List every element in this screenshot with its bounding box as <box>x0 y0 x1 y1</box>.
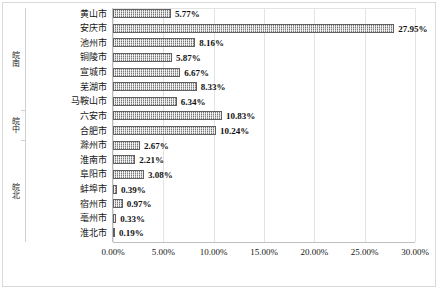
bar-value-label: 6.67% <box>184 67 209 79</box>
bar-value-label: 8.33% <box>201 81 226 93</box>
bar-value-label: 10.83% <box>226 110 255 122</box>
category-label: 宿州市 <box>80 198 107 211</box>
x-axis-tick-label: 20.00% <box>300 246 328 258</box>
category-label: 亳州市 <box>80 212 107 225</box>
bar-row: 10.83% <box>113 110 415 123</box>
bar-row: 8.16% <box>113 37 415 50</box>
bar-value-label: 5.87% <box>176 52 201 64</box>
gridline <box>415 8 416 242</box>
x-axis-tick-label: 10.00% <box>200 246 228 258</box>
bar-value-label: 0.33% <box>120 213 145 225</box>
bar-row: 2.21% <box>113 154 415 167</box>
category-label: 马鞍山市 <box>71 95 107 108</box>
bar-row: 2.67% <box>113 140 415 153</box>
category-label: 铜陵市 <box>80 51 107 64</box>
plot-bottom-border <box>113 242 415 243</box>
category-axis: 黄山市安庆市池州市铜陵市宣城市芜湖市马鞍山市六安市合肥市滁州市淮南市阜阳市蚌埠市… <box>26 8 112 242</box>
bar <box>113 199 123 208</box>
x-axis-tick-label: 25.00% <box>351 246 379 258</box>
bar <box>113 38 195 47</box>
group-separator-tick <box>21 110 26 111</box>
category-label: 淮南市 <box>80 154 107 167</box>
x-axis: 0.00%5.00%10.00%15.00%20.00%25.00%30.00% <box>113 246 415 262</box>
category-label: 阜阳市 <box>80 168 107 181</box>
bar-row: 5.77% <box>113 8 415 21</box>
category-label: 芜湖市 <box>80 81 107 94</box>
category-label: 池州市 <box>80 37 107 50</box>
bar-row: 0.33% <box>113 213 415 226</box>
bar <box>113 111 222 120</box>
category-label: 滁州市 <box>80 139 107 152</box>
bar <box>113 126 216 135</box>
x-axis-tick-label: 0.00% <box>101 246 124 258</box>
bar-chart: 皖南皖中皖北 黄山市安庆市池州市铜陵市宣城市芜湖市马鞍山市六安市合肥市滁州市淮南… <box>0 0 438 289</box>
bar-value-label: 0.97% <box>127 198 152 210</box>
bar-value-label: 6.34% <box>181 96 206 108</box>
bar-value-label: 5.77% <box>175 8 200 20</box>
x-axis-tick-label: 5.00% <box>152 246 175 258</box>
bar-value-label: 3.08% <box>148 169 173 181</box>
x-axis-tick-label: 15.00% <box>250 246 278 258</box>
bar <box>113 53 172 62</box>
bar <box>113 185 117 194</box>
group-label-皖北: 皖北 <box>4 140 26 242</box>
bar-value-label: 2.21% <box>139 154 164 166</box>
group-axis: 皖南皖中皖北 <box>4 8 26 242</box>
bar-row: 0.19% <box>113 227 415 240</box>
bar-row: 0.97% <box>113 198 415 211</box>
bar-value-label: 27.95% <box>398 23 427 35</box>
bar-value-label: 2.67% <box>144 140 169 152</box>
bar-value-label: 8.16% <box>199 37 224 49</box>
group-separator-tick <box>21 140 26 141</box>
bar-row: 8.33% <box>113 81 415 94</box>
bar-row: 10.24% <box>113 125 415 138</box>
group-label-皖南: 皖南 <box>4 8 26 110</box>
bar-row: 27.95% <box>113 23 415 36</box>
bar <box>113 9 171 18</box>
bar <box>113 68 180 77</box>
category-label: 宣城市 <box>80 66 107 79</box>
category-label: 蚌埠市 <box>80 183 107 196</box>
bar-row: 6.67% <box>113 67 415 80</box>
bar-value-label: 0.39% <box>121 184 146 196</box>
category-label: 合肥市 <box>80 125 107 138</box>
bar-row: 5.87% <box>113 52 415 65</box>
group-label-皖中: 皖中 <box>4 110 26 139</box>
bar <box>113 155 135 164</box>
bar <box>113 228 115 237</box>
bar <box>113 97 177 106</box>
bar <box>113 24 394 33</box>
bar <box>113 141 140 150</box>
category-label: 安庆市 <box>80 22 107 35</box>
bar-row: 3.08% <box>113 169 415 182</box>
plot-area: 5.77%27.95%8.16%5.87%6.67%8.33%6.34%10.8… <box>113 8 415 242</box>
category-label: 淮北市 <box>80 227 107 240</box>
bar <box>113 214 116 223</box>
bar-value-label: 0.19% <box>119 227 144 239</box>
x-axis-tick-label: 30.00% <box>401 246 429 258</box>
bar <box>113 82 197 91</box>
bar <box>113 170 144 179</box>
bar-row: 0.39% <box>113 184 415 197</box>
category-label: 黄山市 <box>80 8 107 21</box>
bar-value-label: 10.24% <box>220 125 249 137</box>
category-label: 六安市 <box>80 110 107 123</box>
bar-row: 6.34% <box>113 96 415 109</box>
